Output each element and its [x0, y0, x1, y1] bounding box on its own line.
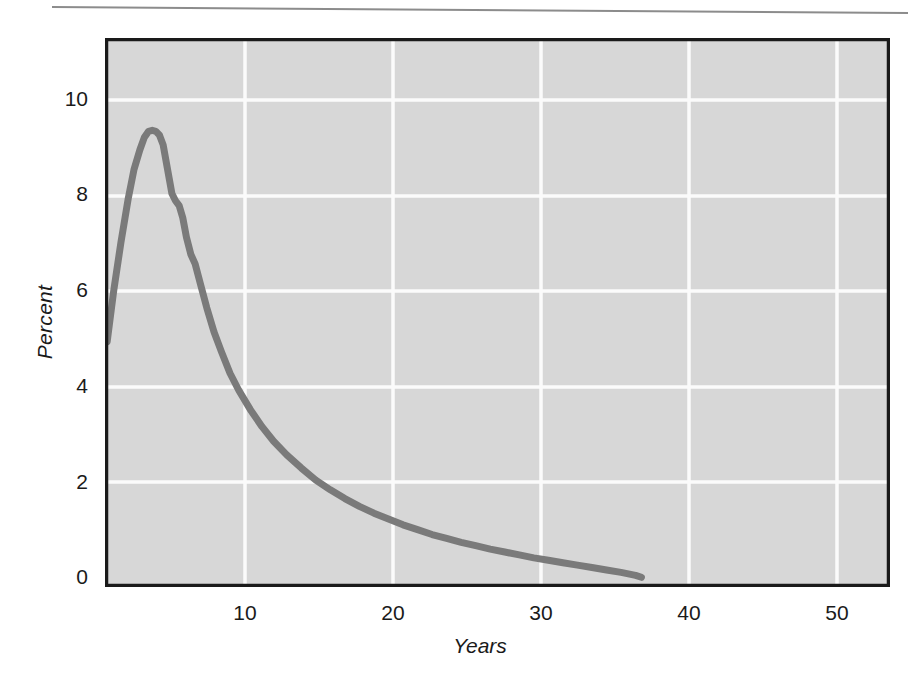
y-axis-title: Percent [33, 267, 57, 377]
chart-figure: 10 8 6 4 2 0 Percent [0, 0, 916, 675]
x-tick-50: 50 [807, 602, 867, 623]
x-tick-30: 30 [511, 602, 571, 623]
y-tick-2: 2 [48, 471, 88, 492]
y-tick-0: 0 [48, 566, 88, 587]
plot-background [105, 38, 890, 587]
page-top-rule [52, 4, 908, 16]
y-tick-10: 10 [48, 88, 88, 109]
top-rule-line [52, 7, 908, 13]
x-tick-20: 20 [363, 602, 423, 623]
x-tick-10: 10 [215, 602, 275, 623]
plot-area [105, 38, 890, 587]
x-tick-40: 40 [659, 602, 719, 623]
y-tick-4: 4 [48, 375, 88, 396]
y-tick-8: 8 [48, 183, 88, 204]
x-axis-title: Years [420, 634, 540, 658]
plot-svg [105, 38, 890, 587]
